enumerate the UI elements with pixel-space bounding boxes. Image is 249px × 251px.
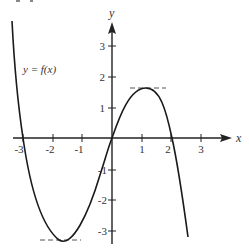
- y-tick-label: -3: [98, 225, 108, 237]
- function-label: y = f(x): [22, 63, 56, 76]
- x-tick-label: -1: [74, 143, 83, 155]
- clipped-text-fragment: [30, 0, 33, 2]
- x-tick-label: -3: [14, 143, 24, 155]
- x-tick-label: 2: [165, 143, 171, 155]
- clipped-text-fragment: [16, 0, 20, 2]
- x-axis: -3 -2 -1 1 2 3 x: [13, 131, 242, 155]
- x-tick-label: 1: [139, 143, 145, 155]
- x-axis-label: x: [235, 131, 242, 145]
- function-curve: [12, 21, 188, 241]
- x-tick-label: -2: [45, 143, 54, 155]
- y-axis-label: y: [108, 6, 115, 20]
- y-axis: 3 2 1 -1 -2 -3 y: [98, 6, 116, 244]
- y-tick-label: 2: [100, 71, 106, 83]
- y-tick-label: 1: [100, 102, 106, 114]
- y-tick-label: -2: [98, 194, 107, 206]
- function-graph: -3 -2 -1 1 2 3 x 3 2 1 -1 -2 -3 y y = f(…: [0, 0, 249, 251]
- x-tick-label: 3: [198, 143, 204, 155]
- y-tick-label: 3: [100, 40, 106, 52]
